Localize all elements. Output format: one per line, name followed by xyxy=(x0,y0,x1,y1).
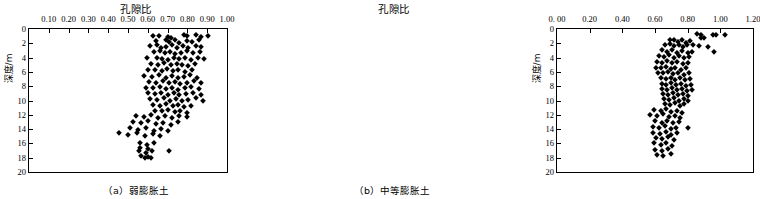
caption-b: （b）中等膨胀土 xyxy=(262,183,522,197)
y-axis-tick xyxy=(29,115,33,116)
data-point xyxy=(165,107,171,113)
y-axis-tick xyxy=(557,86,561,87)
y-axis-tick-label: 6 xyxy=(22,67,29,77)
x-axis-tick xyxy=(128,29,129,33)
data-point xyxy=(188,103,194,109)
x-axis-tick xyxy=(688,29,689,33)
x-axis-tick-label: 0.60 xyxy=(140,14,155,24)
y-axis-tick xyxy=(557,143,561,144)
data-point xyxy=(713,32,719,38)
data-point xyxy=(144,55,150,61)
data-point xyxy=(157,84,163,90)
data-point xyxy=(195,55,201,61)
x-axis-tick-label: 0.20 xyxy=(582,14,597,24)
panel-weak-expansive-soil: 孔隙比 0.100.200.300.400.500.600.700.800.90… xyxy=(0,0,260,199)
y-axis-tick-label: 20 xyxy=(546,167,558,177)
x-axis-tick xyxy=(227,29,228,33)
x-axis-tick xyxy=(655,29,656,33)
x-axis-tick xyxy=(187,29,188,33)
x-axis-tick xyxy=(622,29,623,33)
y-axis-tick-label: 8 xyxy=(22,81,29,91)
x-axis-tick xyxy=(148,29,149,33)
data-point xyxy=(133,113,139,119)
data-point xyxy=(205,33,211,39)
x-axis-tick-label: 0.20 xyxy=(61,14,76,24)
y-axis-tick-label: 12 xyxy=(18,110,30,120)
y-axis-tick xyxy=(29,43,33,44)
caption-a: （a）弱膨胀土 xyxy=(6,183,266,197)
data-point xyxy=(184,114,190,120)
data-point xyxy=(201,56,207,62)
x-axis-tick-label: 0.90 xyxy=(200,14,215,24)
x-axis-tick-label: 0.80 xyxy=(180,14,195,24)
y-axis-tick-label: 6 xyxy=(550,67,557,77)
data-point xyxy=(156,73,162,79)
y-axis-tick xyxy=(557,158,561,159)
y-axis-tick-label: 2 xyxy=(550,38,557,48)
y-axis-tick-label: 18 xyxy=(546,153,558,163)
y-axis-tick-label: 12 xyxy=(546,110,558,120)
data-point xyxy=(674,130,680,136)
y-axis-tick-label: 10 xyxy=(546,96,558,106)
y-axis-tick xyxy=(29,143,33,144)
data-point xyxy=(685,125,691,131)
y-axis-tick xyxy=(557,129,561,130)
y-axis-tick-label: 0 xyxy=(550,24,557,34)
data-point xyxy=(168,122,174,128)
x-axis-tick-label: 1.20 xyxy=(746,14,760,24)
x-axis-tick xyxy=(108,29,109,33)
y-axis-tick-label: 14 xyxy=(18,124,30,134)
data-point xyxy=(676,119,682,125)
data-point xyxy=(146,79,152,85)
data-point xyxy=(689,87,695,93)
y-axis-tick-label: 8 xyxy=(550,81,557,91)
data-point xyxy=(151,140,157,146)
x-axis-tick-label: 0.70 xyxy=(160,14,175,24)
data-point xyxy=(176,119,182,125)
data-point xyxy=(200,98,206,104)
data-point xyxy=(651,140,657,146)
data-point xyxy=(142,133,148,139)
data-point xyxy=(196,86,202,92)
data-point xyxy=(660,153,666,159)
data-point xyxy=(188,84,194,90)
y-axis-tick xyxy=(557,101,561,102)
y-axis-tick-label: 16 xyxy=(18,138,30,148)
data-point xyxy=(148,155,154,161)
y-axis-tick xyxy=(29,158,33,159)
x-axis-tick-label: 0.30 xyxy=(81,14,96,24)
y-axis-tick xyxy=(29,86,33,87)
data-point xyxy=(163,44,169,50)
data-point xyxy=(722,32,728,38)
y-axis-tick-label: 4 xyxy=(22,53,29,63)
y-axis-tick xyxy=(29,172,33,173)
y-axis-tick-label: 2 xyxy=(22,38,29,48)
data-point xyxy=(169,73,175,79)
x-axis-tick-label: 0.40 xyxy=(101,14,116,24)
y-axis-tick-label: 18 xyxy=(18,153,30,163)
data-point xyxy=(147,96,153,102)
y-axis-tick-label: 4 xyxy=(550,53,557,63)
data-point xyxy=(169,115,175,121)
data-point xyxy=(145,68,151,74)
data-point xyxy=(147,43,153,49)
y-axis-tick xyxy=(557,115,561,116)
data-point xyxy=(190,50,196,56)
y-axis-tick-label: 14 xyxy=(546,124,558,134)
data-point xyxy=(198,92,204,98)
data-point xyxy=(157,133,163,139)
x-axis-tick-label: 0. 00 xyxy=(549,14,566,24)
y-axis-tick-label: 0 xyxy=(22,24,29,34)
data-point xyxy=(116,130,122,136)
y-axis-label-b: 深度/m xyxy=(530,39,543,99)
data-point xyxy=(647,112,653,118)
data-point xyxy=(690,42,696,48)
y-axis-tick xyxy=(557,43,561,44)
plot-area-a: 0.100.200.300.400.500.600.700.800.901.00… xyxy=(28,28,228,173)
data-point xyxy=(177,113,183,119)
x-axis-tick-label: 0.80 xyxy=(680,14,695,24)
y-axis-tick xyxy=(29,129,33,130)
x-axis-tick xyxy=(88,29,89,33)
data-point xyxy=(150,131,156,137)
